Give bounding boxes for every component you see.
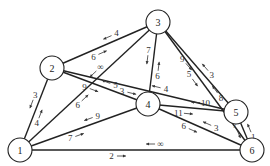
backward-capacity: 9: [96, 111, 101, 121]
edge-4-5: [148, 104, 236, 112]
backward-capacity: 3: [209, 70, 214, 80]
backward-capacity: 4: [114, 28, 119, 38]
backward-capacity: 7: [146, 45, 151, 55]
forward-capacity: 6: [75, 100, 80, 110]
backward-capacity: 10: [201, 98, 211, 108]
forward-capacity: 9: [82, 82, 87, 92]
node-1: 1: [8, 138, 32, 162]
edge-1-4: [20, 104, 148, 150]
node-label: 5: [234, 107, 239, 118]
backward-capacity: 5: [113, 80, 118, 90]
forward-capacity: 4: [35, 118, 40, 128]
node-4: 4: [136, 92, 160, 116]
node-label: 6: [250, 145, 255, 156]
backward-capacity: 3: [214, 123, 219, 133]
edge-1-2: [20, 68, 52, 150]
edge-1-3: [20, 22, 158, 150]
graph-svg: 436∞792∞64953467935811106317 123456: [0, 0, 270, 166]
forward-capacity: 11: [174, 108, 183, 118]
node-label: 3: [156, 17, 161, 28]
backward-capacity: 4: [164, 84, 169, 94]
forward-capacity: 6: [91, 52, 96, 62]
edge-3-5: [158, 22, 236, 112]
backward-capacity: ∞: [97, 62, 103, 72]
edge-2-3: [52, 22, 158, 68]
edge-3-6: [158, 22, 252, 150]
backward-capacity: ∞: [157, 139, 163, 149]
node-3: 3: [146, 10, 170, 34]
node-label: 2: [50, 63, 55, 74]
node-label: 1: [18, 145, 23, 156]
forward-capacity: 7: [68, 133, 73, 143]
network-diagram: 436∞792∞64953467935811106317 123456: [0, 0, 270, 166]
backward-capacity: 8: [219, 93, 224, 103]
node-2: 2: [40, 56, 64, 80]
node-6: 6: [240, 138, 264, 162]
forward-capacity: 5: [187, 69, 192, 79]
nodes-layer: 123456: [8, 10, 264, 162]
backward-capacity: 3: [33, 90, 38, 100]
node-label: 4: [146, 99, 151, 110]
forward-capacity: 3: [120, 86, 125, 96]
forward-capacity: 6: [182, 121, 187, 131]
forward-capacity: 6: [155, 71, 160, 81]
forward-capacity: 9: [180, 54, 185, 64]
node-5: 5: [224, 100, 248, 124]
forward-capacity: 2: [109, 151, 114, 161]
edge-2-4: [52, 68, 148, 104]
